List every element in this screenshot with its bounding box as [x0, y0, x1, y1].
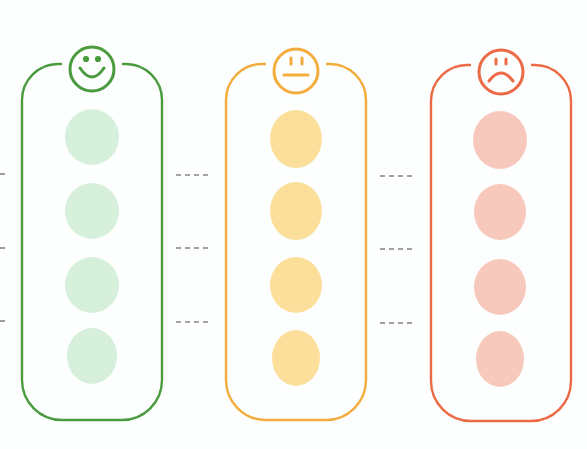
- slot-1: [65, 109, 119, 165]
- slot-4: [67, 328, 117, 384]
- frown-face-icon: [479, 50, 523, 94]
- slot-3: [65, 257, 119, 313]
- slot-1: [270, 110, 322, 168]
- column-neutral: [226, 49, 366, 420]
- smiley-face-icon: [70, 47, 114, 91]
- column-negative: [431, 50, 571, 421]
- slot-2: [65, 183, 119, 239]
- slot-1: [473, 111, 527, 169]
- neutral-face-icon: [274, 49, 318, 93]
- slot-2: [270, 182, 322, 240]
- slot-4: [272, 330, 320, 386]
- slot-3: [474, 259, 526, 315]
- column-positive: [22, 47, 162, 420]
- slot-4: [476, 331, 524, 387]
- sentiment-diagram: [0, 0, 587, 449]
- connectors: [0, 174, 416, 323]
- slot-2: [474, 184, 526, 240]
- slot-3: [270, 257, 322, 313]
